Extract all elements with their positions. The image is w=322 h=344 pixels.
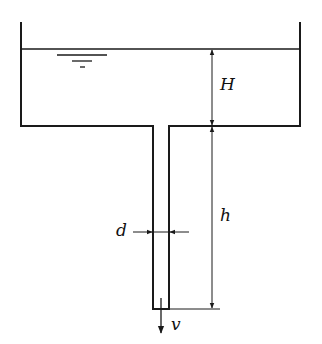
label-h: h	[220, 205, 231, 225]
tank-pipe-drawing	[0, 0, 322, 344]
diagram-canvas: H h d v	[0, 0, 322, 344]
free-surface-icon	[57, 55, 107, 67]
label-d: d	[116, 220, 127, 240]
label-H: H	[220, 74, 235, 94]
label-v: v	[171, 314, 181, 334]
tank-outline	[21, 22, 300, 309]
